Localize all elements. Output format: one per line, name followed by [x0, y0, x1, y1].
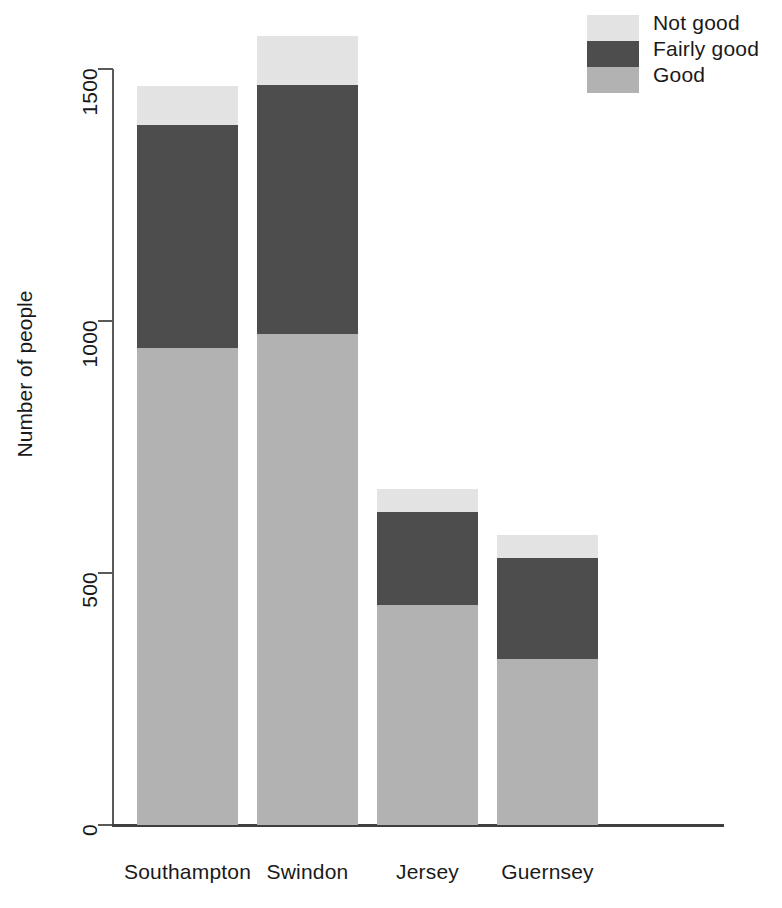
legend-label-fairly-good: Fairly good	[653, 36, 759, 62]
x-axis-category-label: Swindon	[267, 860, 349, 884]
x-axis-category-label: Southampton	[124, 860, 251, 884]
bar-segment-good	[497, 659, 598, 825]
y-axis-tick-label: 0	[78, 824, 102, 836]
bar-segment-good	[257, 334, 358, 825]
legend-label-not-good: Not good	[653, 10, 759, 36]
legend-label-good: Good	[653, 62, 759, 88]
bar-segment-fairly-good	[377, 512, 478, 605]
y-axis-tick-label: 1500	[78, 68, 102, 116]
x-axis-category-label: Jersey	[396, 860, 459, 884]
legend-swatch-not-good	[587, 15, 639, 41]
y-axis-tick-label: 500	[78, 572, 102, 608]
bar-southampton	[137, 86, 238, 825]
y-axis-title: Number of people	[13, 291, 37, 458]
bar-segment-not-good	[257, 36, 358, 85]
bar-segment-fairly-good	[137, 125, 238, 348]
bar-guernsey	[497, 535, 598, 825]
y-axis-line	[112, 69, 114, 826]
bar-segment-fairly-good	[497, 558, 598, 659]
bar-segment-not-good	[137, 86, 238, 125]
bar-segment-fairly-good	[257, 85, 358, 334]
x-axis-category-label: Guernsey	[501, 860, 594, 884]
bar-segment-not-good	[377, 489, 478, 512]
stacked-bar-chart: 050010001500 Number of people Southampto…	[0, 0, 782, 908]
bar-swindon	[257, 36, 358, 825]
bar-segment-good	[377, 605, 478, 825]
bar-segment-not-good	[497, 535, 598, 558]
bar-segment-good	[137, 348, 238, 825]
y-axis-tick-label: 1000	[78, 320, 102, 368]
legend-swatch-fairly-good	[587, 41, 639, 67]
legend-label-list: Not goodFairly goodGood	[653, 10, 759, 88]
legend-swatch-stack	[587, 15, 639, 93]
legend-swatch-good	[587, 67, 639, 93]
bar-jersey	[377, 489, 478, 825]
